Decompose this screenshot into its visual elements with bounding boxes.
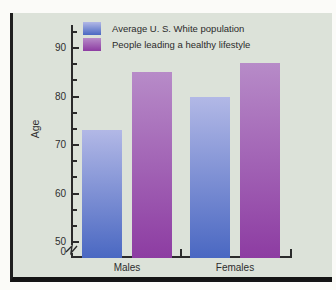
legend-swatch-purple xyxy=(83,38,101,51)
legend-label-healthy: People leading a healthy lifestyle xyxy=(112,39,250,50)
y-axis-major-tick xyxy=(72,96,79,98)
bar-males-healthy xyxy=(132,72,172,258)
y-axis-minor-tick xyxy=(72,112,77,114)
legend-item-average: Average U. S. White population xyxy=(83,20,250,36)
y-axis-minor-tick xyxy=(72,225,77,227)
x-axis-category-label: Females xyxy=(195,262,275,273)
x-axis-tick xyxy=(180,249,182,257)
y-axis-minor-tick xyxy=(72,63,77,65)
figure: 0 Age 9080706050MalesFemales Average U. … xyxy=(0,0,336,290)
y-axis-major-tick xyxy=(72,144,79,146)
x-axis-category-label: Males xyxy=(87,262,167,273)
y-axis-tick-label: 70 xyxy=(40,139,66,151)
y-axis-major-tick xyxy=(72,193,79,195)
y-axis-major-tick xyxy=(72,241,79,243)
legend-swatch-blue xyxy=(83,22,101,35)
y-axis-tick-label: 60 xyxy=(40,188,66,200)
y-axis-line xyxy=(71,25,73,258)
y-axis-major-tick xyxy=(72,47,79,49)
legend-label-average: Average U. S. White population xyxy=(112,23,244,34)
y-axis-minor-tick xyxy=(72,176,77,178)
x-axis-tick xyxy=(290,249,292,257)
y-axis-tick-label: 90 xyxy=(40,42,66,54)
bar-males-average xyxy=(82,130,122,258)
y-axis-tick-label: 80 xyxy=(40,91,66,103)
legend-item-healthy: People leading a healthy lifestyle xyxy=(83,36,250,52)
bar-females-healthy xyxy=(240,63,280,258)
y-axis-minor-tick xyxy=(72,31,77,33)
y-axis-minor-tick xyxy=(72,209,77,211)
legend: Average U. S. White population People le… xyxy=(83,20,250,52)
y-axis-minor-tick xyxy=(72,128,77,130)
y-axis-minor-tick xyxy=(72,160,77,162)
y-axis-minor-tick xyxy=(72,79,77,81)
bar-females-average xyxy=(190,97,230,259)
axis-break-icon xyxy=(64,243,80,255)
y-axis-tick-label: 50 xyxy=(40,236,66,248)
